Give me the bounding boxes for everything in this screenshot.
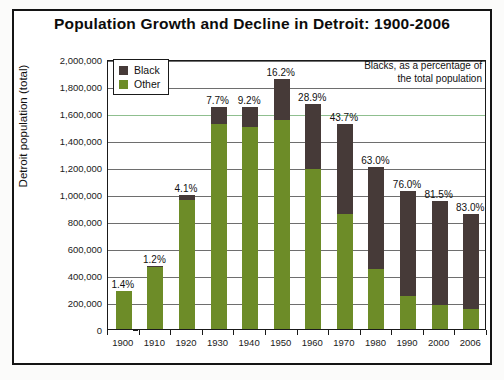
- legend-item-black: Black: [119, 63, 160, 77]
- legend: Black Other: [113, 59, 169, 95]
- bar-label-1920: 4.1%: [175, 183, 198, 194]
- x-tick-label-2006: 2006: [460, 337, 481, 348]
- bar-label-1970: 43.7%: [330, 112, 358, 123]
- y-tick-label: 1,600,000: [32, 109, 102, 120]
- bar-segment-black: [368, 167, 384, 269]
- bar-segment-black: [463, 214, 479, 310]
- bar-1930: [211, 107, 227, 329]
- bar-1980: [368, 167, 384, 329]
- x-tick-mark: [454, 330, 455, 335]
- bar-2000: [432, 201, 448, 329]
- y-axis-tick-labels: 2,000,0001,800,0001,600,0001,400,0001,20…: [30, 60, 102, 330]
- bar-segment-other: [274, 120, 290, 329]
- y-tick-label: 0: [32, 325, 102, 336]
- x-tick-label-1900: 1900: [112, 337, 133, 348]
- x-tick-mark: [265, 330, 266, 335]
- bar-segment-other: [432, 305, 448, 329]
- y-tick-label: 2,000,000: [32, 55, 102, 66]
- chart-page: Population Growth and Decline in Detroit…: [0, 0, 504, 380]
- bar-1920: [179, 195, 195, 329]
- bar-label-1900: 1.4%: [111, 279, 134, 290]
- bar-label-1910: 1.2%: [143, 254, 166, 265]
- y-tick-label: 400,000: [32, 271, 102, 282]
- y-tick-label: 200,000: [32, 298, 102, 309]
- x-tick-mark: [486, 330, 487, 335]
- x-tick-label-1960: 1960: [302, 337, 323, 348]
- x-tick-label-1990: 1990: [396, 337, 417, 348]
- bar-segment-other: [305, 169, 321, 329]
- bar-1940: [242, 107, 258, 329]
- chart-title: Population Growth and Decline in Detroit…: [0, 15, 504, 33]
- x-tick-mark: [328, 330, 329, 335]
- bar-segment-black: [337, 124, 353, 214]
- x-tick-mark: [423, 330, 424, 335]
- x-tick-label-1980: 1980: [365, 337, 386, 348]
- x-tick-label-1920: 1920: [175, 337, 196, 348]
- gridline: [108, 115, 485, 116]
- bar-segment-black: [274, 79, 290, 120]
- bar-2006: [463, 214, 479, 329]
- chart-annotation: Blacks, as a percentage of the total pop…: [364, 60, 482, 85]
- legend-label-black: Black: [134, 64, 160, 76]
- x-tick-mark: [391, 330, 392, 335]
- bar-segment-other: [337, 214, 353, 329]
- x-tick-mark: [202, 330, 203, 335]
- bar-segment-other: [242, 127, 258, 329]
- gridline: [108, 142, 485, 143]
- x-tick-label-1910: 1910: [144, 337, 165, 348]
- bar-segment-black: [400, 191, 416, 296]
- bar-1970: [337, 124, 353, 329]
- bar-1950: [274, 79, 290, 329]
- bar-1900: [116, 291, 132, 329]
- x-tick-mark: [233, 330, 234, 335]
- x-tick-label-1930: 1930: [207, 337, 228, 348]
- x-tick-label-1940: 1940: [239, 337, 260, 348]
- gridline: [108, 277, 485, 278]
- legend-swatch-other: [119, 80, 128, 89]
- bar-segment-other: [179, 200, 195, 329]
- legend-swatch-black: [119, 66, 128, 75]
- legend-item-other: Other: [119, 77, 160, 91]
- bar-segment-other: [400, 296, 416, 329]
- annotation-line-2: the total population: [364, 73, 482, 86]
- bar-segment-other: [368, 269, 384, 329]
- bar-segment-black: [242, 107, 258, 127]
- bar-label-1990: 76.0%: [393, 179, 421, 190]
- bar-label-2000: 81.5%: [424, 189, 452, 200]
- bar-segment-other: [463, 309, 479, 329]
- y-axis-title: Detroit population (total): [17, 16, 29, 236]
- y-tick-label: 1,800,000: [32, 82, 102, 93]
- y-tick-label: 1,000,000: [32, 190, 102, 201]
- bar-segment-black: [211, 107, 227, 124]
- x-tick-mark: [107, 330, 108, 335]
- bar-label-1940: 9.2%: [238, 95, 261, 106]
- y-tick-mark: [133, 330, 138, 331]
- bar-1990: [400, 191, 416, 329]
- y-tick-label: 1,200,000: [32, 163, 102, 174]
- legend-label-other: Other: [134, 78, 160, 90]
- y-tick-label: 600,000: [32, 244, 102, 255]
- bar-1960: [305, 104, 321, 329]
- gridline: [108, 304, 485, 305]
- x-tick-mark: [170, 330, 171, 335]
- x-tick-mark: [360, 330, 361, 335]
- bar-segment-black: [305, 104, 321, 169]
- gridline: [108, 223, 485, 224]
- x-tick-mark: [297, 330, 298, 335]
- y-tick-label: 1,400,000: [32, 136, 102, 147]
- bar-label-1980: 63.0%: [361, 155, 389, 166]
- bar-segment-other: [211, 124, 227, 329]
- gridline: [108, 169, 485, 170]
- bar-label-2006: 83.0%: [456, 202, 484, 213]
- bar-segment-other: [147, 267, 163, 329]
- bar-segment-black: [432, 201, 448, 306]
- bar-label-1930: 7.7%: [206, 95, 229, 106]
- gridline: [108, 250, 485, 251]
- bar-1910: [147, 266, 163, 329]
- annotation-line-1: Blacks, as a percentage of: [364, 60, 482, 73]
- x-tick-mark: [139, 330, 140, 335]
- x-tick-label-1950: 1950: [270, 337, 291, 348]
- bar-label-1960: 28.9%: [298, 92, 326, 103]
- bar-segment-other: [116, 291, 132, 329]
- x-tick-label-2000: 2000: [428, 337, 449, 348]
